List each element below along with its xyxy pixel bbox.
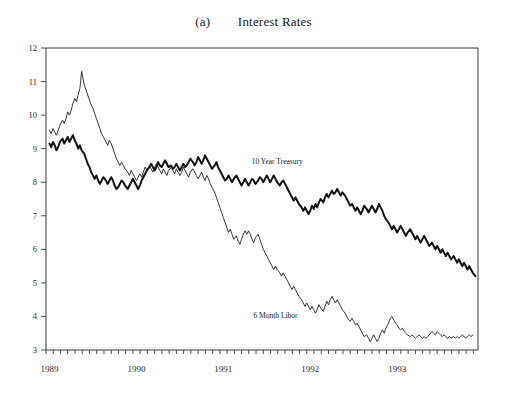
y-tick-label: 5 xyxy=(33,278,37,288)
y-tick-label: 11 xyxy=(29,77,37,87)
x-tick-label: 1992 xyxy=(301,364,319,374)
y-tick-label: 8 xyxy=(33,177,37,187)
y-tick-label: 10 xyxy=(29,110,38,120)
y-tick-label: 7 xyxy=(33,211,37,221)
plot-border xyxy=(46,48,478,350)
y-tick-label: 12 xyxy=(29,43,38,53)
y-tick-label: 4 xyxy=(33,311,38,321)
series-label-6-month-libor: 6 Month Libor xyxy=(253,311,298,320)
data-series-group xyxy=(49,71,475,341)
y-tick-label: 6 xyxy=(33,244,37,254)
x-axis-ticks: 19891990199119921993 xyxy=(40,350,473,374)
series-label-10-year-treasury: 10 Year Treasury xyxy=(252,157,303,166)
y-tick-label: 9 xyxy=(33,144,37,154)
axis-frame xyxy=(46,48,478,350)
x-tick-label: 1990 xyxy=(127,364,146,374)
interest-rates-figure: (a) Interest Rates 3456789101112 1989199… xyxy=(0,0,507,393)
x-tick-label: 1991 xyxy=(214,364,232,374)
series-line-6-month-libor xyxy=(49,71,472,341)
x-tick-label: 1993 xyxy=(388,364,407,374)
chart-plot-area: 3456789101112 19891990199119921993 10 Ye… xyxy=(0,0,507,393)
y-axis-ticks: 3456789101112 xyxy=(29,43,47,355)
y-tick-label: 3 xyxy=(33,345,37,355)
x-tick-label: 1989 xyxy=(40,364,59,374)
